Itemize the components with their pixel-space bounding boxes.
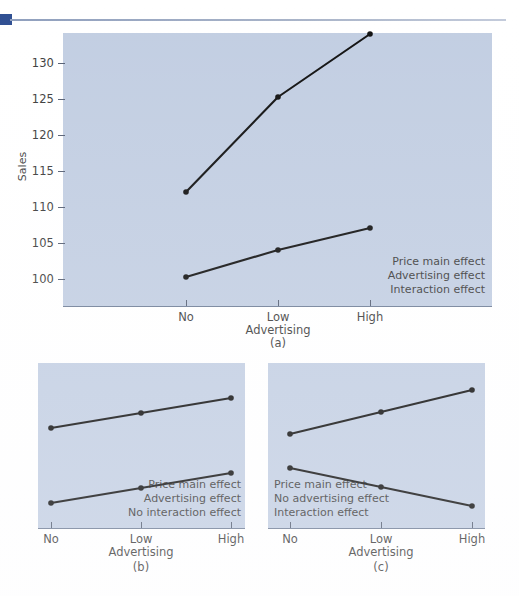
figure-page: 130 125 120 115 110 105 100 Sales No Low… (0, 0, 519, 596)
panel-c: No Low High Advertising (c) Price main e… (0, 0, 519, 596)
panel-c-point-lower-low (378, 484, 384, 490)
panel-c-series-svg (0, 0, 519, 596)
panel-c-point-lower-no (287, 465, 293, 471)
panel-c-point-upper-low (378, 409, 384, 415)
panel-c-point-upper-no (287, 431, 293, 437)
panel-c-point-lower-high (469, 503, 475, 509)
panel-c-point-upper-high (469, 387, 475, 393)
